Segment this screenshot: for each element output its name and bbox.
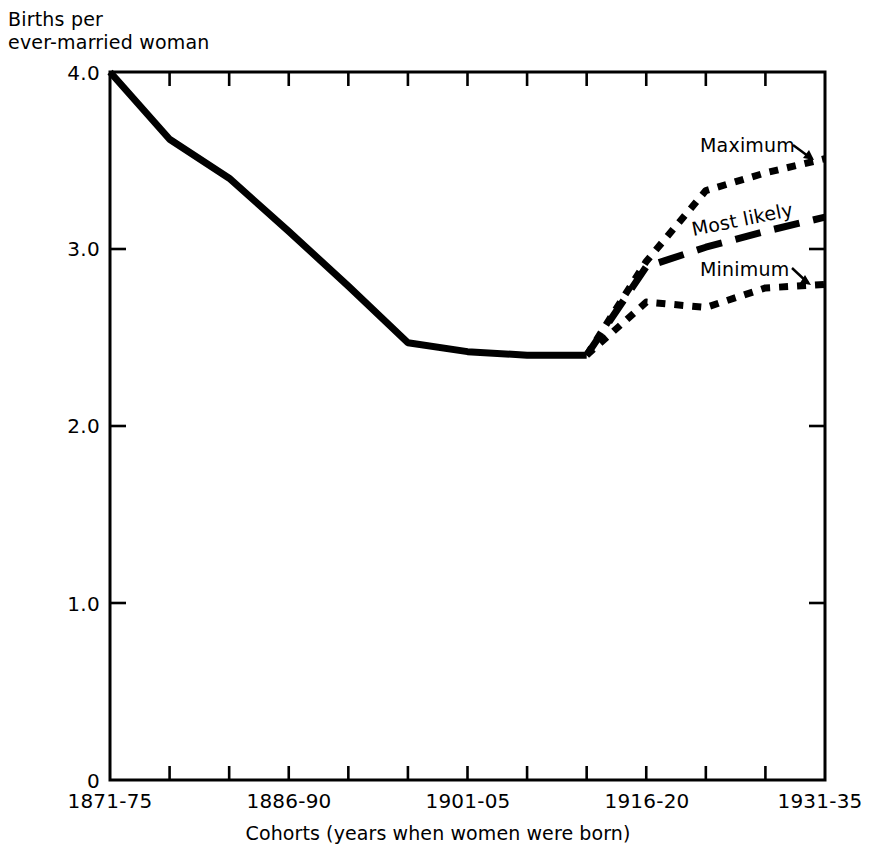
- plot-frame: [110, 72, 825, 780]
- annotation-minimum: Minimum: [700, 258, 789, 280]
- x-axis-ticks-bottom: [170, 766, 766, 780]
- series-line-actual: [110, 72, 587, 355]
- annotation-maximum: Maximum: [700, 134, 795, 156]
- series-line-maximum: [587, 159, 825, 355]
- chart-figure: Births per ever-married woman 4.0 3.0 2.…: [0, 0, 876, 861]
- maximum-arrow-icon: [793, 145, 814, 160]
- series-line-minimum: [587, 284, 825, 355]
- plot-canvas: [0, 0, 876, 861]
- series-line-most-likely: [587, 217, 825, 355]
- axes-frame: [110, 72, 825, 780]
- x-axis-ticks-top: [170, 72, 766, 86]
- minimum-arrow-icon: [792, 268, 811, 285]
